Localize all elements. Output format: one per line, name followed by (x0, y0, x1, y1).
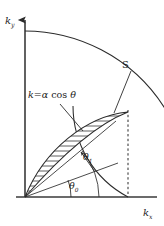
equation-equals: = (34, 89, 42, 100)
y-axis-label: ky (5, 16, 15, 28)
x-axis-label: kx (143, 208, 153, 220)
theta-zero-subscript: 0 (75, 187, 79, 193)
equation-alpha: α (42, 89, 48, 100)
wavevector-diagram-figure: ky kx S k=α cos θ θ1 θ0 (0, 0, 164, 226)
x-axis-label-subscript: x (149, 213, 153, 220)
theta-one-subscript: 1 (89, 158, 93, 164)
theta-zero-label: θ0 (69, 181, 78, 194)
equation-leader-line (60, 104, 83, 131)
S-leader-line (114, 71, 131, 113)
axes-group (16, 20, 157, 197)
equation-cos: cos (51, 89, 67, 100)
equation-theta: θ (70, 89, 76, 100)
y-axis-label-subscript: y (11, 21, 15, 28)
surface-label-S: S (122, 60, 129, 70)
equation-label: k=α cos θ (28, 90, 76, 100)
diagram-canvas (0, 0, 164, 226)
theta-one-label: θ1 (83, 152, 92, 165)
